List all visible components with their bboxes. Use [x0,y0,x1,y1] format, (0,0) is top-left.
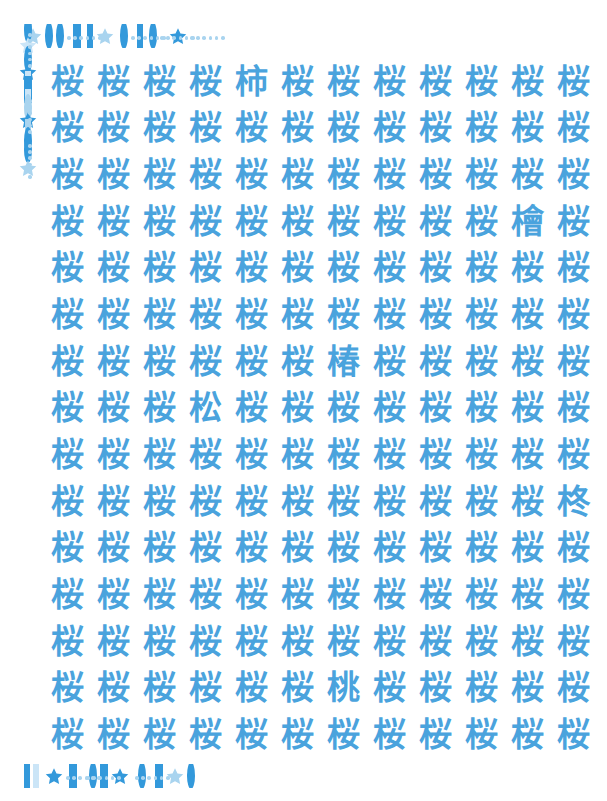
kanji-cell[interactable]: 桜 [419,65,452,98]
kanji-cell[interactable]: 桜 [51,158,84,191]
kanji-cell[interactable]: 桜 [327,251,360,284]
kanji-cell-odd[interactable]: 柿 [235,65,268,98]
kanji-cell[interactable]: 桜 [511,345,544,378]
kanji-cell[interactable]: 桜 [327,531,360,564]
kanji-cell[interactable]: 桜 [281,158,314,191]
kanji-cell[interactable]: 桜 [281,531,314,564]
kanji-cell[interactable]: 桜 [511,111,544,144]
kanji-cell[interactable]: 桜 [373,718,406,751]
kanji-cell[interactable]: 桜 [557,391,590,424]
kanji-cell[interactable]: 桜 [51,345,84,378]
kanji-cell[interactable]: 桜 [143,438,176,471]
kanji-cell[interactable]: 桜 [557,438,590,471]
kanji-cell[interactable]: 桜 [235,298,268,331]
kanji-cell[interactable]: 桜 [327,298,360,331]
kanji-cell[interactable]: 桜 [143,111,176,144]
kanji-cell[interactable]: 桜 [51,391,84,424]
kanji-cell[interactable]: 桜 [465,718,498,751]
kanji-cell[interactable]: 桜 [557,345,590,378]
kanji-cell[interactable]: 桜 [143,205,176,238]
kanji-cell[interactable]: 桜 [419,251,452,284]
kanji-cell[interactable]: 桜 [419,671,452,704]
kanji-cell[interactable]: 桜 [373,438,406,471]
kanji-cell[interactable]: 桜 [511,158,544,191]
kanji-cell[interactable]: 桜 [97,671,130,704]
kanji-cell[interactable]: 桜 [235,251,268,284]
kanji-cell[interactable]: 桜 [465,438,498,471]
kanji-cell[interactable]: 桜 [235,438,268,471]
kanji-cell[interactable]: 桜 [373,158,406,191]
kanji-cell[interactable]: 桜 [97,718,130,751]
kanji-cell[interactable]: 桜 [51,578,84,611]
kanji-cell[interactable]: 桜 [557,111,590,144]
kanji-cell[interactable]: 桜 [511,65,544,98]
kanji-cell-odd[interactable]: 松 [189,391,222,424]
kanji-cell[interactable]: 桜 [419,345,452,378]
kanji-cell[interactable]: 桜 [373,531,406,564]
kanji-cell[interactable]: 桜 [51,111,84,144]
kanji-cell[interactable]: 桜 [557,298,590,331]
kanji-cell[interactable]: 桜 [97,345,130,378]
kanji-cell[interactable]: 桜 [373,65,406,98]
kanji-cell[interactable]: 桜 [143,251,176,284]
kanji-cell[interactable]: 桜 [97,578,130,611]
kanji-cell[interactable]: 桜 [97,65,130,98]
kanji-cell[interactable]: 桜 [511,625,544,658]
kanji-cell[interactable]: 桜 [557,65,590,98]
kanji-cell[interactable]: 桜 [143,718,176,751]
kanji-cell[interactable]: 桜 [419,531,452,564]
kanji-cell[interactable]: 桜 [327,391,360,424]
kanji-cell[interactable]: 桜 [189,438,222,471]
kanji-cell[interactable]: 桜 [511,438,544,471]
kanji-cell[interactable]: 桜 [51,65,84,98]
kanji-cell[interactable]: 桜 [327,205,360,238]
kanji-cell[interactable]: 桜 [281,111,314,144]
kanji-cell[interactable]: 桜 [189,65,222,98]
kanji-cell[interactable]: 桜 [235,578,268,611]
kanji-cell[interactable]: 桜 [327,438,360,471]
kanji-cell[interactable]: 桜 [465,625,498,658]
kanji-cell[interactable]: 桜 [465,391,498,424]
kanji-cell[interactable]: 桜 [511,671,544,704]
kanji-cell[interactable]: 桜 [143,485,176,518]
kanji-cell[interactable]: 桜 [281,251,314,284]
kanji-cell[interactable]: 桜 [143,65,176,98]
kanji-cell[interactable]: 桜 [51,485,84,518]
kanji-cell[interactable]: 桜 [557,158,590,191]
kanji-cell[interactable]: 桜 [235,111,268,144]
kanji-cell[interactable]: 桜 [189,625,222,658]
kanji-cell[interactable]: 桜 [465,65,498,98]
kanji-cell[interactable]: 桜 [51,718,84,751]
kanji-cell[interactable]: 桜 [281,671,314,704]
kanji-cell[interactable]: 桜 [327,485,360,518]
kanji-cell[interactable]: 桜 [281,298,314,331]
kanji-cell[interactable]: 桜 [235,485,268,518]
kanji-cell[interactable]: 桜 [281,625,314,658]
kanji-cell[interactable]: 桜 [281,485,314,518]
kanji-cell[interactable]: 桜 [373,298,406,331]
kanji-cell[interactable]: 桜 [465,251,498,284]
kanji-cell[interactable]: 桜 [557,718,590,751]
kanji-cell[interactable]: 桜 [373,251,406,284]
kanji-cell-odd[interactable]: 柊 [557,485,590,518]
kanji-cell[interactable]: 桜 [281,345,314,378]
kanji-cell[interactable]: 桜 [189,485,222,518]
kanji-cell[interactable]: 桜 [281,718,314,751]
kanji-cell[interactable]: 桜 [97,391,130,424]
kanji-cell[interactable]: 桜 [97,438,130,471]
kanji-cell[interactable]: 桜 [465,578,498,611]
kanji-cell[interactable]: 桜 [143,158,176,191]
kanji-cell[interactable]: 桜 [97,205,130,238]
kanji-cell[interactable]: 桜 [189,158,222,191]
kanji-cell[interactable]: 桜 [557,205,590,238]
kanji-cell[interactable]: 桜 [51,671,84,704]
kanji-cell[interactable]: 桜 [97,531,130,564]
kanji-cell[interactable]: 桜 [419,625,452,658]
kanji-cell[interactable]: 桜 [143,345,176,378]
kanji-cell[interactable]: 桜 [143,625,176,658]
kanji-cell[interactable]: 桜 [143,671,176,704]
kanji-cell[interactable]: 桜 [97,625,130,658]
kanji-cell[interactable]: 桜 [557,578,590,611]
kanji-cell[interactable]: 桜 [419,718,452,751]
kanji-cell[interactable]: 桜 [373,391,406,424]
